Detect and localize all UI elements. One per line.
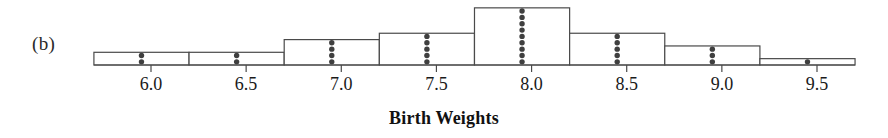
data-dot — [329, 59, 334, 64]
x-tick-label: 7.5 — [425, 74, 448, 95]
data-dot — [615, 40, 620, 45]
data-dot — [329, 40, 334, 45]
data-dot — [519, 53, 524, 58]
data-dot — [615, 46, 620, 51]
data-dot — [519, 46, 524, 51]
data-dot — [424, 46, 429, 51]
data-dot — [139, 53, 144, 58]
histogram-dotplot-figure: (b) 6.06.57.07.58.08.59.09.5 Birth Weigh… — [0, 0, 888, 138]
data-dot — [710, 53, 715, 58]
data-dot — [519, 15, 524, 20]
data-dot — [805, 59, 810, 64]
data-dot — [615, 53, 620, 58]
data-dot — [519, 40, 524, 45]
data-dot — [424, 40, 429, 45]
data-dot — [615, 34, 620, 39]
x-tick-label: 9.0 — [711, 74, 734, 95]
data-dot — [519, 34, 524, 39]
bars-layer — [94, 8, 855, 65]
panel-label: (b) — [32, 33, 55, 55]
data-dot — [519, 21, 524, 26]
x-tick-label: 8.5 — [615, 74, 638, 95]
x-axis-title: Birth Weights — [389, 108, 499, 129]
data-dot — [519, 59, 524, 64]
data-dot — [519, 27, 524, 32]
data-dot — [710, 59, 715, 64]
data-dot — [329, 46, 334, 51]
data-dot — [424, 34, 429, 39]
data-dot — [139, 59, 144, 64]
data-dot — [519, 8, 524, 13]
x-tick-label: 8.0 — [520, 74, 543, 95]
data-dot — [424, 59, 429, 64]
x-axis — [94, 65, 855, 72]
data-dot — [329, 53, 334, 58]
data-dot — [710, 46, 715, 51]
data-dot — [424, 53, 429, 58]
data-dot — [234, 59, 239, 64]
x-tick-label: 7.0 — [330, 74, 353, 95]
x-tick-label: 6.0 — [140, 74, 163, 95]
x-tick-label: 9.5 — [806, 74, 829, 95]
x-tick-label: 6.5 — [235, 74, 258, 95]
data-dot — [615, 59, 620, 64]
data-dot — [234, 53, 239, 58]
